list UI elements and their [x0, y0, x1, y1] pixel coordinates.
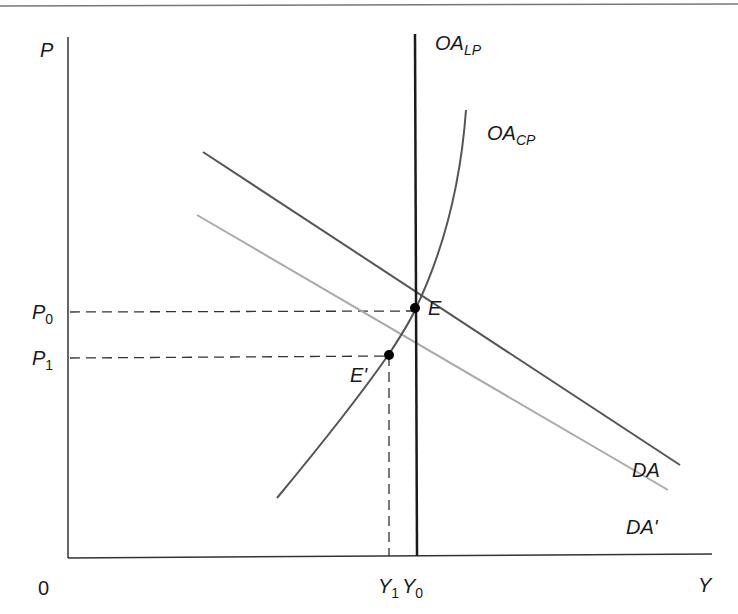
da-line [203, 152, 680, 465]
p1-label: P1 [32, 348, 53, 372]
oa-lp-line [415, 34, 417, 556]
oa-cp-label: OACP [487, 123, 535, 147]
p1-guide [70, 356, 389, 358]
y1-label: Y1 [378, 576, 399, 600]
da-prime-label: DA' [626, 517, 658, 537]
top-rule [0, 4, 738, 6]
y-axis-label: Y [698, 575, 711, 595]
e-prime-label: E' [350, 365, 367, 385]
e-label: E [428, 298, 441, 318]
point-e-prime [384, 350, 394, 360]
y0-label: Y0 [402, 576, 423, 600]
da-label: DA [632, 460, 660, 480]
point-e [410, 303, 420, 313]
y-axis [68, 554, 712, 558]
oa-lp-label: OALP [435, 33, 481, 57]
p-axis-label: P [40, 40, 53, 60]
origin-label: 0 [38, 578, 49, 598]
p0-label: P0 [32, 302, 53, 326]
da-prime-line [197, 215, 668, 490]
